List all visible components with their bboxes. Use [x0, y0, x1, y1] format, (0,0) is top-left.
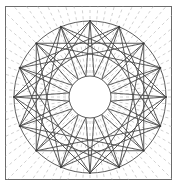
star-vertex-dot [118, 26, 120, 28]
star-vertex-dot [159, 125, 161, 127]
star-vertex-dot [159, 67, 161, 69]
star-vertex-dot [165, 96, 167, 98]
star-vertex-dot [35, 42, 37, 44]
star-vertex-dot [143, 150, 145, 152]
star-vertex-dot [89, 172, 91, 174]
star-vertex-dot [143, 42, 145, 44]
center-hub-circle [69, 76, 111, 118]
star-vertex-dot [118, 166, 120, 168]
star-vertex-dot [60, 26, 62, 28]
star-vertex-dot [89, 20, 91, 22]
geometric-figure-container [0, 0, 179, 194]
star-vertex-dot [60, 166, 62, 168]
star-vertex-dot [13, 96, 15, 98]
star-vertex-dot [35, 150, 37, 152]
star-rosette-svg [0, 0, 179, 194]
star-vertex-dot [19, 125, 21, 127]
star-vertex-dot [19, 67, 21, 69]
